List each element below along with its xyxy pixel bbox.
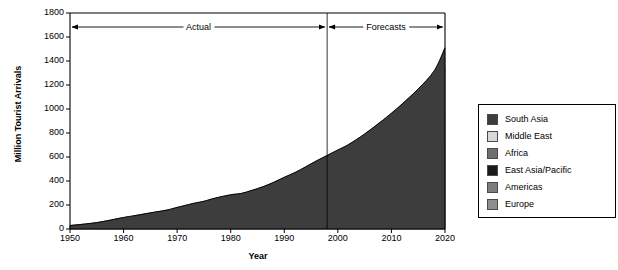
legend-item-label: Africa [505, 148, 528, 158]
legend-swatch-icon [487, 131, 498, 142]
area-series-south-asia [70, 48, 445, 229]
legend-swatch-icon [487, 148, 498, 159]
legend-item-africa[interactable]: Africa [487, 145, 528, 161]
annotation-label-actual: Actual [183, 22, 214, 32]
annotation-label-forecasts: Forecasts [363, 22, 409, 32]
legend-item-label: Middle East [505, 131, 552, 141]
legend-item-middle-east[interactable]: Middle East [487, 128, 552, 144]
legend-swatch-icon [487, 199, 498, 210]
legend-swatch-icon [487, 114, 498, 125]
legend-item-label: Europe [505, 199, 534, 209]
legend-item-label: South Asia [505, 114, 548, 124]
legend-item-americas[interactable]: Americas [487, 179, 543, 195]
legend-item-label: Americas [505, 182, 543, 192]
chart-legend: South AsiaMiddle EastAfricaEast Asia/Pac… [478, 104, 616, 218]
legend-item-label: East Asia/Pacific [505, 165, 572, 175]
legend-swatch-icon [487, 165, 498, 176]
chart-figure: Million Tourist Arrivals Year 0200400600… [0, 0, 618, 270]
legend-swatch-icon [487, 182, 498, 193]
legend-item-south-asia[interactable]: South Asia [487, 111, 548, 127]
legend-item-europe[interactable]: Europe [487, 196, 534, 212]
legend-item-east-asia-pacific[interactable]: East Asia/Pacific [487, 162, 572, 178]
